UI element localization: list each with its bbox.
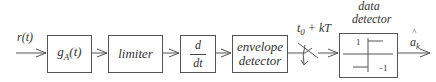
data-detector-title: data detector xyxy=(352,0,386,26)
limiter-label: limiter xyxy=(118,47,153,61)
level-high-label: 1 xyxy=(356,37,361,47)
envelope-label: envelope xyxy=(237,40,283,54)
data-detector-block xyxy=(339,33,398,78)
matched-filter-block: gA(t) xyxy=(47,35,92,73)
input-signal-label: r(t) xyxy=(17,30,33,45)
derivative-fraction: d dt xyxy=(190,39,206,70)
sampling-time-label: t0 + kT xyxy=(297,21,331,37)
detector-label: detector xyxy=(239,54,282,68)
derivative-numerator: d xyxy=(195,39,201,52)
envelope-detector-block: envelope detector xyxy=(232,35,288,73)
limiter-block: limiter xyxy=(108,35,163,73)
output-symbol-label: ^ ak xyxy=(410,27,420,51)
level-low-label: −1 xyxy=(378,63,388,73)
differentiator-block: d dt xyxy=(180,35,216,73)
derivative-denominator: dt xyxy=(193,57,202,70)
matched-filter-label: gA(t) xyxy=(57,45,81,64)
fraction-bar xyxy=(190,54,206,55)
